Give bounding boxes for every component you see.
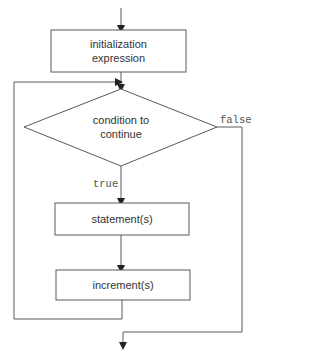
- init-label-line2: expression: [51, 51, 186, 65]
- statements-label: statement(s): [55, 212, 189, 226]
- condition-label-line2: continue: [71, 127, 171, 141]
- condition-label: condition to continue: [71, 113, 171, 141]
- init-box-label: initialization expression: [51, 37, 186, 65]
- increment-label: increment(s): [56, 278, 190, 292]
- condition-label-line1: condition to: [71, 113, 171, 127]
- init-label-line1: initialization: [51, 37, 186, 51]
- false-edge-label: false: [220, 114, 252, 126]
- true-edge-label: true: [93, 178, 118, 190]
- false-exit-path: [123, 127, 242, 346]
